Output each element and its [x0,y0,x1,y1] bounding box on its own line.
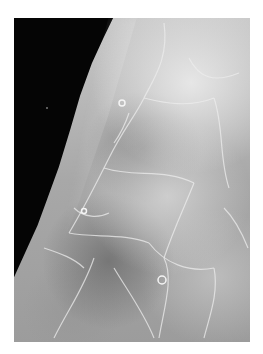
radiograph-image [14,18,250,342]
vessel-network [14,18,250,342]
